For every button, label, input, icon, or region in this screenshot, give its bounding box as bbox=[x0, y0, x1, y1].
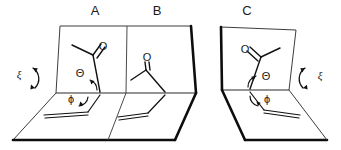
phi-angle-label-c: ϕ bbox=[264, 93, 270, 105]
upper-plane-left-edge-bold-c bbox=[221, 27, 222, 90]
carbonyl-oxygen-label-a: O bbox=[99, 40, 108, 52]
panel-label-c: C bbox=[242, 3, 251, 18]
xi-label-a: ξ bbox=[17, 68, 22, 81]
carbonyl-double-bond-b-2 bbox=[149, 62, 150, 70]
carbonyl-oxygen-label-c: O bbox=[241, 43, 250, 55]
phi-angle-label-a: ϕ bbox=[68, 93, 74, 105]
chemistry-conformation-figure: O Θ ϕ ξ bbox=[0, 0, 341, 150]
xi-arrowhead-lower-a bbox=[30, 85, 35, 90]
theta-angle-label-c: Θ bbox=[262, 70, 271, 82]
figure-canvas: O Θ ϕ ξ bbox=[0, 0, 341, 150]
lower-plane-face-ab bbox=[13, 93, 196, 140]
panel-c-xi-rotation: ξ bbox=[299, 68, 322, 90]
xi-arrowhead-lower-c bbox=[303, 85, 308, 90]
theta-angle-label-a: Θ bbox=[76, 67, 85, 79]
panel-label-a: A bbox=[91, 3, 100, 18]
xi-label-c: ξ bbox=[318, 69, 323, 82]
panel-a-xi-rotation: ξ bbox=[17, 68, 39, 90]
right-plane-group bbox=[221, 27, 327, 140]
panel-label-b: B bbox=[153, 3, 162, 18]
upper-plane-face-c bbox=[221, 27, 296, 90]
carbonyl-double-bond-b-1 bbox=[145, 62, 146, 70]
carbonyl-oxygen-label-b: O bbox=[143, 51, 152, 63]
